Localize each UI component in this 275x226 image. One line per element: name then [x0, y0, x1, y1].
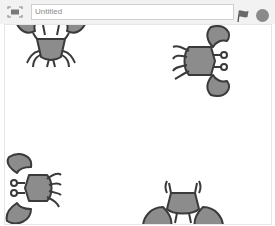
green-flag-icon[interactable] [236, 9, 250, 23]
stage[interactable] [4, 24, 272, 225]
fullscreen-icon[interactable] [7, 6, 23, 18]
stop-button[interactable] [256, 9, 269, 22]
crab-sprite[interactable] [141, 175, 225, 225]
project-title-input[interactable] [31, 4, 234, 20]
player-toolbar [0, 0, 275, 24]
crab-sprite[interactable] [171, 25, 237, 97]
crab-sprite[interactable] [9, 24, 93, 69]
crab-sprite[interactable] [4, 151, 63, 225]
